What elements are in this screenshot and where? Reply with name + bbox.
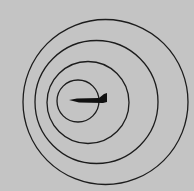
jet-icon [69,93,107,103]
wavefront-diagram [0,0,194,191]
doppler-diagram: Sound wavefronts emitted by a moving jet… [0,0,194,191]
